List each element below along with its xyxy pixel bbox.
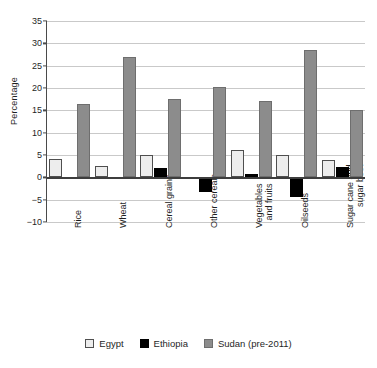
bar-sudan xyxy=(168,99,181,177)
y-tick-label: 20 xyxy=(32,84,42,93)
bar-ethiopia xyxy=(290,177,303,197)
y-tick-label: 0 xyxy=(37,173,42,182)
y-tick-label: 10 xyxy=(32,128,42,137)
x-axis-labels: RiceWheatCereal grainsOther cerealsVeget… xyxy=(46,222,364,332)
bar-group xyxy=(229,21,274,222)
legend-item[interactable]: Ethiopia xyxy=(140,338,188,349)
zero-axis-line xyxy=(47,177,365,178)
chart-legend: EgyptEthiopiaSudan (pre-2011) xyxy=(0,338,377,349)
bar-groups xyxy=(47,21,365,222)
y-axis-title: Percentage xyxy=(9,61,19,141)
legend-item[interactable]: Sudan (pre-2011) xyxy=(204,338,292,349)
bar-egypt xyxy=(95,166,108,178)
bar-sudan xyxy=(213,87,226,178)
plot-area: 35302520151050−5−10 xyxy=(46,21,365,222)
bar-group xyxy=(320,21,365,222)
bar-sudan xyxy=(304,50,317,177)
bar-egypt xyxy=(140,155,153,177)
y-tick-label: 25 xyxy=(32,61,42,70)
bar-ethiopia xyxy=(154,168,167,177)
legend-label: Ethiopia xyxy=(154,338,188,349)
bar-egypt xyxy=(276,155,289,177)
bar-sudan xyxy=(350,110,363,177)
bar-group xyxy=(183,21,228,222)
bar-group xyxy=(138,21,183,222)
y-tick-label: 15 xyxy=(32,106,42,115)
bar-group xyxy=(274,21,319,222)
legend-item[interactable]: Egypt xyxy=(85,338,123,349)
y-tick-label: −10 xyxy=(27,218,42,227)
y-tick-label: 5 xyxy=(37,151,42,160)
bar-egypt xyxy=(231,150,244,177)
legend-swatch-ethiopia xyxy=(140,339,149,348)
bar-chart: Percentage 35302520151050−5−10 RiceWheat… xyxy=(0,0,377,368)
legend-swatch-sudan xyxy=(204,339,213,348)
y-tick-label: 30 xyxy=(32,39,42,48)
bar-group xyxy=(92,21,137,222)
bar-group xyxy=(47,21,92,222)
bar-sudan xyxy=(77,104,90,178)
bar-ethiopia xyxy=(336,167,349,177)
legend-swatch-egypt xyxy=(85,339,94,348)
bar-egypt xyxy=(322,160,335,177)
bar-sudan xyxy=(259,101,272,177)
y-tick-label: 35 xyxy=(32,17,42,26)
bar-sudan xyxy=(123,57,136,177)
bar-egypt xyxy=(49,159,62,178)
legend-label: Egypt xyxy=(99,338,123,349)
bar-ethiopia xyxy=(199,177,212,191)
legend-label: Sudan (pre-2011) xyxy=(218,338,292,349)
y-tick-label: −5 xyxy=(32,195,42,204)
